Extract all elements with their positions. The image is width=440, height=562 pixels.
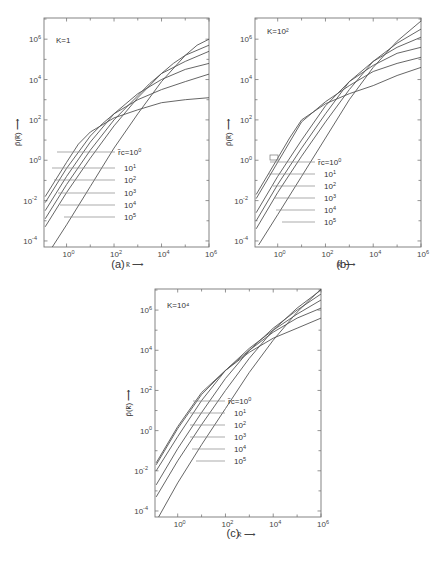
tick-label: 102 xyxy=(140,385,152,396)
figure: 10010210410610610410210010-210-4p̃(k̃) ⟶… xyxy=(0,0,440,562)
y-axis-label: p̃(k̃) ⟶ xyxy=(124,389,133,417)
y-axis-label: p̃(k̃) ⟶ xyxy=(13,118,22,146)
tick-label: 100 xyxy=(240,155,252,166)
curve-series xyxy=(256,57,421,198)
curve-series xyxy=(256,67,421,194)
curve-series xyxy=(256,29,421,229)
tick-label: 104 xyxy=(29,74,41,85)
tick-label: 102 xyxy=(240,114,252,125)
tick-label: 103 xyxy=(324,193,336,204)
tick-label: 10-2 xyxy=(134,465,148,476)
tick-label: 102 xyxy=(29,114,41,125)
tick-label: 102 xyxy=(124,175,136,186)
tick-label: 104 xyxy=(140,345,152,356)
tick-label: 104 xyxy=(124,200,136,211)
curve-series xyxy=(256,37,421,221)
tick-label: 104 xyxy=(324,205,336,216)
tick-label: 102 xyxy=(324,181,336,192)
tick-label: r̃c=100 xyxy=(227,396,252,407)
tick-label: 105 xyxy=(324,217,336,228)
tick-label: 103 xyxy=(124,188,136,199)
chart-panel-b: 10010210410610610410210010-210-4p̃(k̃) ⟶… xyxy=(224,18,429,270)
tick-label: 106 xyxy=(317,519,329,530)
tick-label: 104 xyxy=(240,74,252,85)
tick-label: 106 xyxy=(140,305,152,316)
k-annotation: K=10² xyxy=(267,27,289,36)
tick-label: 106 xyxy=(417,249,429,260)
tick-label: r̃c=100 xyxy=(117,147,142,158)
tick-label: 10-4 xyxy=(23,235,37,246)
tick-label: 10-2 xyxy=(234,195,248,206)
panel-label: (a) xyxy=(111,258,124,270)
tick-label: 100 xyxy=(29,155,41,166)
y-axis-label: p̃(k̃) ⟶ xyxy=(224,118,233,146)
x-axis-label: k̃ ⟶ xyxy=(237,530,255,539)
tick-label: 102 xyxy=(321,249,333,260)
tick-label: 102 xyxy=(234,420,246,431)
panel-label: (b) xyxy=(336,258,349,270)
tick-label: 104 xyxy=(369,249,381,260)
tick-label: 101 xyxy=(324,169,336,180)
k-annotation: K=1 xyxy=(56,36,71,45)
x-axis-label: k̃ ⟶ xyxy=(126,260,144,269)
tick-label: 100 xyxy=(274,249,286,260)
plot-frame xyxy=(255,18,421,247)
panel-label: (c) xyxy=(227,527,240,539)
tick-label: 104 xyxy=(234,444,246,455)
tick-label: 100 xyxy=(140,425,152,436)
tick-label: 104 xyxy=(269,519,281,530)
tick-label: 105 xyxy=(234,456,246,467)
tick-label: 10-2 xyxy=(23,195,37,206)
tick-label: 106 xyxy=(240,34,252,45)
chart-panel-a: 10010210410610610410210010-210-4p̃(k̃) ⟶… xyxy=(13,18,217,270)
k-annotation: K=10⁴ xyxy=(167,301,190,310)
tick-label: 106 xyxy=(29,34,41,45)
tick-label: 106 xyxy=(205,249,217,260)
tick-label: 10-4 xyxy=(234,235,248,246)
tick-label: 105 xyxy=(124,212,136,223)
curve-series xyxy=(45,45,209,227)
chart-panel-c: 10010210410610610410210010-210-4p̃(k̃) ⟶… xyxy=(124,289,329,539)
tick-label: 103 xyxy=(234,432,246,443)
tick-label: 104 xyxy=(158,249,170,260)
tick-label: 100 xyxy=(63,249,75,260)
curve-series xyxy=(259,21,421,245)
tick-label: 101 xyxy=(124,163,136,174)
tick-label: 100 xyxy=(174,519,186,530)
tick-label: 10-4 xyxy=(134,505,148,516)
tick-label: r̃c=100 xyxy=(317,157,342,168)
tick-label: 101 xyxy=(234,408,246,419)
